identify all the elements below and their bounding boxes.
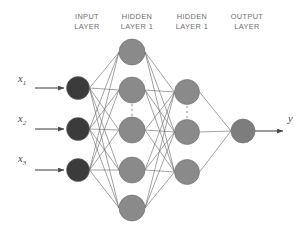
ellipsis-dot-hidden1-1 <box>131 104 133 106</box>
connection-h1a-to-h2a <box>145 52 175 92</box>
connection-h1d-to-h2a <box>145 92 175 170</box>
node-h1e <box>119 195 145 221</box>
node-h1a <box>119 39 145 65</box>
node-h2b <box>175 120 200 145</box>
connection-lines <box>90 52 232 208</box>
output-label-y: y <box>288 113 293 124</box>
connection-h1a-to-h2c <box>145 52 175 172</box>
ellipsis-dot-hidden1-2 <box>131 109 133 111</box>
connection-h2c-to-o1 <box>200 131 232 172</box>
connection-h2a-to-o1 <box>200 92 232 131</box>
connection-i2-to-h1b <box>90 90 120 129</box>
node-i2 <box>67 118 90 141</box>
node-i1 <box>67 77 90 100</box>
node-h1b <box>119 77 145 103</box>
node-h2a <box>175 80 200 105</box>
neural-network-diagram: INPUT LAYER HIDDEN LAYER 1 HIDDEN LAYER … <box>0 0 307 238</box>
ellipsis-dot-hidden2-3 <box>186 116 188 118</box>
connection-i2-to-h1e <box>90 129 120 208</box>
node-h2c <box>175 160 200 185</box>
connection-h2b-to-o1 <box>200 131 232 132</box>
connection-h1c-to-h2a <box>145 92 175 130</box>
input-label-x3-sub: 3 <box>23 159 27 167</box>
input-label-x1: x1 <box>18 73 26 87</box>
input-label-x2-sub: 2 <box>23 119 27 127</box>
input-label-x2: x2 <box>18 113 26 127</box>
node-h1c <box>119 117 145 143</box>
connection-h1e-to-h2a <box>145 92 175 208</box>
node-i3 <box>67 159 90 182</box>
input-label-x1-sub: 1 <box>23 79 27 87</box>
node-o1 <box>231 119 255 143</box>
output-label-y-base: y <box>288 113 293 124</box>
ellipsis-dot-hidden2-2 <box>186 111 188 113</box>
layer-title-output: OUTPUT LAYER <box>218 12 276 31</box>
network-nodes <box>67 39 256 221</box>
connection-i1-to-h1e <box>90 88 120 208</box>
input-label-x3: x3 <box>18 153 26 167</box>
connection-i2-to-h1a <box>90 52 120 129</box>
layer-title-input: INPUT LAYER <box>60 12 114 31</box>
ellipsis-dot-hidden1-3 <box>131 114 133 116</box>
ellipsis-dot-hidden2-1 <box>186 106 188 108</box>
layer-title-hidden-1: HIDDEN LAYER 1 <box>108 12 166 31</box>
node-h1d <box>119 157 145 183</box>
network-canvas <box>0 0 307 238</box>
layer-title-hidden-2: HIDDEN LAYER 1 <box>163 12 221 31</box>
